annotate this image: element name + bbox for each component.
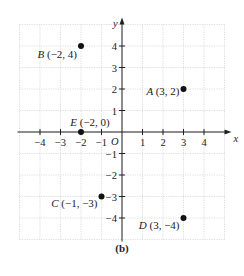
x-tick-label: 4 <box>201 137 207 148</box>
x-axis-label: x <box>233 133 239 144</box>
coordinate-plane: xyO −4−3−2−112344321−1−2−3−4 A (3, 2)B (… <box>0 0 244 276</box>
x-tick-label: −3 <box>55 137 66 148</box>
point-d: D (3, −4) <box>138 215 187 232</box>
y-tick-label: 3 <box>112 63 117 74</box>
y-tick-label: −4 <box>106 213 118 224</box>
point-label: B (−2, 4) <box>37 48 77 61</box>
point-marker-icon <box>181 86 187 92</box>
point-c: C (−1, −3) <box>51 194 104 210</box>
point-marker-icon <box>78 43 84 49</box>
x-tick-label: −2 <box>75 137 86 148</box>
y-tick-label: −3 <box>106 192 117 203</box>
y-tick-label: −1 <box>106 149 117 160</box>
point-a: A (3, 2) <box>145 85 186 98</box>
y-axis-arrow-icon <box>120 18 125 25</box>
point-label: E (−2, 0) <box>69 116 110 129</box>
y-axis-label: y <box>112 18 118 29</box>
y-tick-label: 1 <box>112 106 117 117</box>
point-marker-icon <box>99 194 105 200</box>
x-tick-label: −4 <box>34 137 46 148</box>
point-marker-icon <box>181 215 187 221</box>
x-tick-label: 3 <box>181 137 186 148</box>
point-marker-icon <box>78 129 84 135</box>
origin-label: O <box>111 136 119 147</box>
point-label: A (3, 2) <box>145 85 179 98</box>
x-tick-label: 2 <box>160 137 165 148</box>
x-axis-arrow-icon <box>225 130 232 135</box>
point-label: D (3, −4) <box>138 219 180 232</box>
point-label: C (−1, −3) <box>51 197 98 210</box>
figure-caption: (b) <box>115 242 129 255</box>
y-tick-label: 2 <box>112 84 117 95</box>
y-tick-label: 4 <box>112 41 118 52</box>
x-tick-label: −1 <box>96 137 107 148</box>
x-tick-label: 1 <box>140 137 145 148</box>
y-tick-label: −2 <box>106 170 117 181</box>
